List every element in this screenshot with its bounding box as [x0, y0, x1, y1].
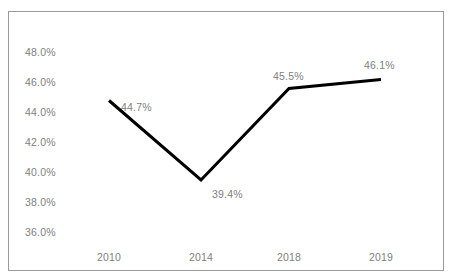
line-series-svg — [9, 12, 445, 272]
y-axis-tick-46: 46.0% — [25, 76, 56, 88]
y-axis-tick-36: 36.0% — [25, 226, 56, 238]
y-axis-tick-38: 38.0% — [25, 196, 56, 208]
x-axis-tick-2018: 2018 — [277, 251, 301, 263]
x-axis-tick-2010: 2010 — [97, 251, 121, 263]
data-label-2018: 45.5% — [273, 70, 304, 82]
data-label-2014: 39.4% — [212, 188, 243, 200]
y-axis-tick-42: 42.0% — [25, 136, 56, 148]
y-axis-tick-44: 44.0% — [25, 106, 56, 118]
x-axis-tick-2019: 2019 — [369, 251, 393, 263]
y-axis-tick-40: 40.0% — [25, 166, 56, 178]
y-axis-tick-48: 48.0% — [25, 46, 56, 58]
line-series-path — [109, 80, 381, 181]
chart-frame: 48.0% 46.0% 44.0% 42.0% 40.0% 38.0% 36.0… — [8, 11, 444, 271]
data-label-2010: 44.7% — [121, 101, 152, 113]
x-axis-tick-2014: 2014 — [189, 251, 213, 263]
plot-area: 48.0% 46.0% 44.0% 42.0% 40.0% 38.0% 36.0… — [9, 12, 443, 270]
data-label-2019: 46.1% — [364, 59, 395, 71]
